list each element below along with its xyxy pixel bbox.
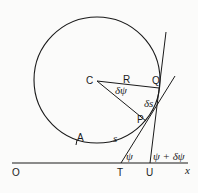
label-psi: ψ	[126, 150, 133, 162]
curvature-diagram: C R Q δψ δs P A s ψ ψ + δψ O T U x	[0, 0, 198, 193]
label-psi-plus-delta: ψ + δψ	[153, 150, 185, 162]
label-delta-psi: δψ	[115, 84, 127, 96]
label-u: U	[146, 167, 153, 178]
label-arc-s: s	[113, 132, 117, 144]
label-q: Q	[152, 75, 160, 86]
label-delta-s: δs	[144, 97, 153, 109]
label-a: A	[77, 132, 84, 143]
label-x-axis: x	[184, 164, 190, 176]
label-t: T	[117, 167, 123, 178]
label-o: O	[12, 167, 20, 178]
label-p: P	[137, 114, 144, 125]
diagram-canvas: C R Q δψ δs P A s ψ ψ + δψ O T U x	[0, 0, 198, 193]
label-c: C	[86, 75, 93, 86]
